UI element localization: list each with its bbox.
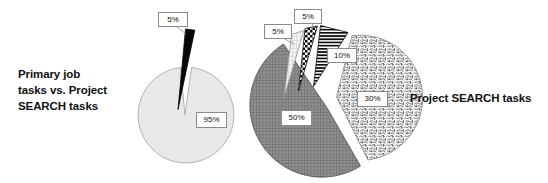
left-pie-chart (138, 29, 234, 163)
label-right-pie-5-percent-b[interactable]: 5% (294, 9, 322, 24)
right-chart-caption: Project SEARCH tasks (410, 90, 548, 106)
label-left-pie-95-percent[interactable]: 95% (196, 112, 227, 128)
leader-left-5 (177, 27, 186, 34)
left-chart-caption: Primary job tasks vs. Project SEARCH tas… (18, 66, 138, 114)
label-right-pie-30-percent[interactable]: 30% (357, 91, 388, 107)
label-right-pie-10-percent[interactable]: 10% (327, 48, 357, 63)
label-right-pie-5-percent-a[interactable]: 5% (264, 24, 292, 39)
label-left-pie-5-percent[interactable]: 5% (158, 12, 188, 27)
label-right-pie-50-percent[interactable]: 50% (281, 110, 312, 126)
